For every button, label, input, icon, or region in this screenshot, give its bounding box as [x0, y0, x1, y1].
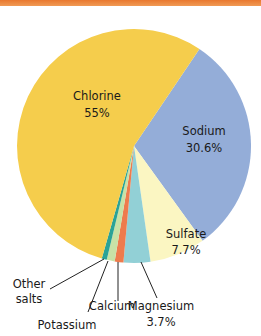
label-other-salts-line2: salts	[16, 292, 43, 306]
pct-chlorine: 55%	[84, 106, 110, 120]
pct-sulfate: 7.7%	[171, 243, 200, 257]
pct-sodium: 30.6%	[186, 141, 223, 155]
label-sodium: Sodium	[182, 124, 225, 138]
label-potassium: Potassium	[38, 318, 97, 332]
leader-line-other-salts	[50, 259, 104, 289]
leader-line-magnesium	[141, 262, 157, 298]
label-sulfate: Sulfate	[166, 227, 206, 241]
label-magnesium: Magnesium	[128, 299, 194, 313]
label-chlorine: Chlorine	[73, 89, 121, 103]
pct-magnesium: 3.7%	[146, 315, 175, 329]
label-other-salts-line1: Other	[13, 277, 46, 291]
pie-chart: Chlorine 55% Sodium 30.6% Sulfate 7.7% O…	[0, 0, 261, 336]
